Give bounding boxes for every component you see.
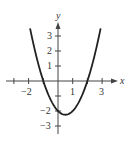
parabola-graph: y x −2 1 3 3 2 1 −2 −3 <box>0 0 133 141</box>
y-tick-label: 3 <box>47 30 52 41</box>
y-tick-label: 2 <box>47 45 52 56</box>
y-axis-arrow-icon <box>56 22 61 29</box>
x-axis-label: x <box>119 75 125 86</box>
y-tick-label: −2 <box>40 105 51 116</box>
x-axis-arrow-icon <box>111 79 118 84</box>
x-tick-label: 1 <box>70 86 75 97</box>
parabola-curve <box>30 28 101 114</box>
y-tick-label: −3 <box>40 120 51 131</box>
y-tick-label: 1 <box>47 60 52 71</box>
y-axis-label: y <box>55 10 61 21</box>
x-tick-label: −2 <box>21 86 32 97</box>
x-tick-label: 3 <box>99 86 104 97</box>
